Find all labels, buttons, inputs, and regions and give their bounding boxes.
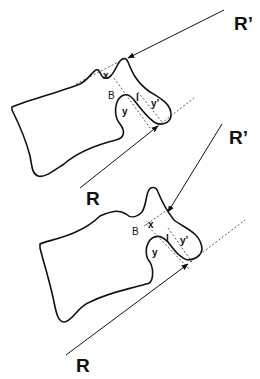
top-label-x: x xyxy=(103,70,109,81)
top-label-B: B xyxy=(108,90,115,101)
bottom-label-B: B xyxy=(132,226,139,237)
top-label-y: y xyxy=(122,106,128,117)
top-vertebra: R’ R x B l y y’ xyxy=(12,10,253,209)
bottom-label-y-prime: y’ xyxy=(180,235,189,246)
bottom-vertebra: R’ R x B l y y’ xyxy=(40,124,248,376)
bottom-force-R xyxy=(66,264,188,355)
bottom-label-x: x xyxy=(148,219,154,230)
bottom-vertebral-body-outline xyxy=(40,188,202,323)
top-force-R xyxy=(80,126,158,188)
vertebra-force-diagram: R’ R x B l y y’ R’ R x B l y y’ xyxy=(0,0,260,379)
top-dash-lower xyxy=(158,98,194,126)
top-label-R: R xyxy=(86,188,100,209)
top-label-R-prime: R’ xyxy=(234,13,253,34)
bottom-force-R-prime xyxy=(168,124,222,212)
diagram-canvas: R’ R x B l y y’ R’ R x B l y y’ xyxy=(0,0,260,379)
bottom-label-l: l xyxy=(166,233,169,244)
top-force-R-prime xyxy=(128,10,224,58)
bottom-label-y: y xyxy=(152,247,158,258)
top-label-y-prime: y’ xyxy=(151,98,160,109)
top-label-l: l xyxy=(136,92,139,103)
bottom-label-R-prime: R’ xyxy=(229,127,248,148)
top-dash-B xyxy=(114,78,150,128)
bottom-label-R: R xyxy=(76,355,90,376)
